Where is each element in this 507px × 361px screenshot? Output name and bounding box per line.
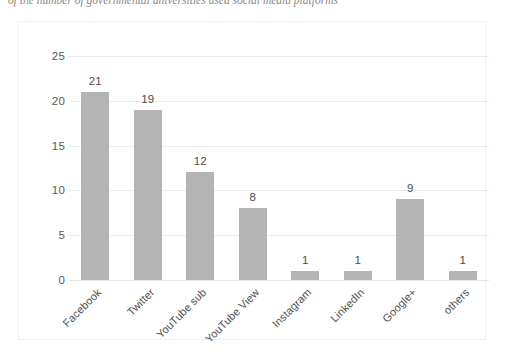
x-axis-tick: Google+ (384, 280, 437, 360)
bar-group: 1 (437, 56, 490, 280)
y-axis: 0510152025 (19, 56, 65, 280)
bar-group: 9 (384, 56, 437, 280)
x-axis-tick-label: Google+ (380, 286, 419, 325)
y-axis-tick-label: 15 (29, 140, 65, 152)
bar[interactable] (239, 208, 267, 280)
bar[interactable] (186, 172, 214, 280)
bar[interactable] (81, 92, 109, 280)
bar[interactable] (134, 110, 162, 280)
x-axis-tick-label: LinkedIn (328, 286, 366, 324)
bar-value-label: 1 (354, 254, 361, 266)
bar[interactable] (344, 271, 372, 280)
x-axis-tick: Instagram (279, 280, 332, 360)
x-axis-tick-label: Facebook (61, 286, 104, 329)
chart-frame: 0510152025 21191281191 FacebookTwitterYo… (18, 21, 486, 340)
bar[interactable] (449, 271, 477, 280)
x-axis-tick-label: Twitter (124, 286, 156, 318)
bar-value-label: 1 (302, 254, 309, 266)
bar-value-label: 1 (459, 254, 466, 266)
y-axis-tick-label: 10 (29, 184, 65, 196)
bar-group: 19 (122, 56, 175, 280)
figure-caption: of the number of governmental universiti… (8, 0, 503, 7)
bar-group: 12 (174, 56, 227, 280)
x-axis-tick: others (437, 280, 490, 360)
bar-value-label: 8 (249, 191, 256, 203)
bar-group: 1 (332, 56, 385, 280)
x-axis-tick: LinkedIn (332, 280, 385, 360)
bar-value-label: 12 (194, 155, 207, 167)
bar-group: 1 (279, 56, 332, 280)
y-axis-tick-label: 0 (29, 274, 65, 286)
bar-group: 21 (69, 56, 122, 280)
bar-series: 21191281191 (69, 56, 489, 280)
x-axis-tick-label: others (441, 286, 472, 317)
y-axis-tick-label: 5 (29, 229, 65, 241)
bar[interactable] (396, 199, 424, 280)
bar-group: 8 (227, 56, 280, 280)
y-axis-tick-label: 25 (29, 50, 65, 62)
bar-value-label: 19 (141, 93, 154, 105)
bar[interactable] (291, 271, 319, 280)
y-axis-tick-label: 20 (29, 95, 65, 107)
x-axis: FacebookTwitterYouTube subYouTube ViewIn… (69, 280, 489, 360)
bar-value-label: 21 (89, 75, 102, 87)
bar-value-label: 9 (407, 182, 414, 194)
x-axis-tick: Facebook (69, 280, 122, 360)
